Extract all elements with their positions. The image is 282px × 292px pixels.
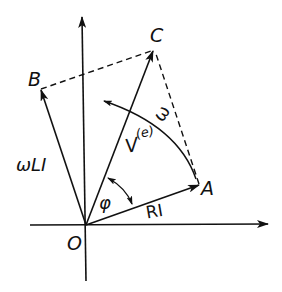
label-omega-li: ωLI — [16, 154, 46, 175]
angle-arc-phi — [108, 178, 132, 204]
label-v-e: V (e) — [122, 123, 158, 157]
label-point-a: A — [199, 177, 214, 199]
y-axis — [82, 17, 86, 281]
label-point-b: B — [28, 68, 41, 90]
label-phi: φ — [99, 192, 111, 213]
dashed-line-b-c — [41, 50, 154, 89]
label-point-c: C — [150, 24, 164, 46]
phasor-diagram: O A B C RI ωLI V (e) φ ω — [0, 0, 282, 292]
label-v-sup: (e) — [134, 123, 155, 141]
label-omega: ω — [148, 101, 174, 125]
label-ri: RI — [144, 200, 164, 223]
label-point-o: O — [67, 232, 82, 254]
vector-omega-li — [41, 90, 86, 225]
x-axis — [30, 224, 268, 225]
